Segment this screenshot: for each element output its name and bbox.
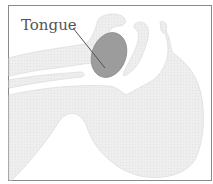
- tongue-label: Tongue: [21, 16, 77, 34]
- diagram-canvas: Tongue: [0, 0, 213, 184]
- anatomy-diagram: Tongue: [0, 0, 213, 184]
